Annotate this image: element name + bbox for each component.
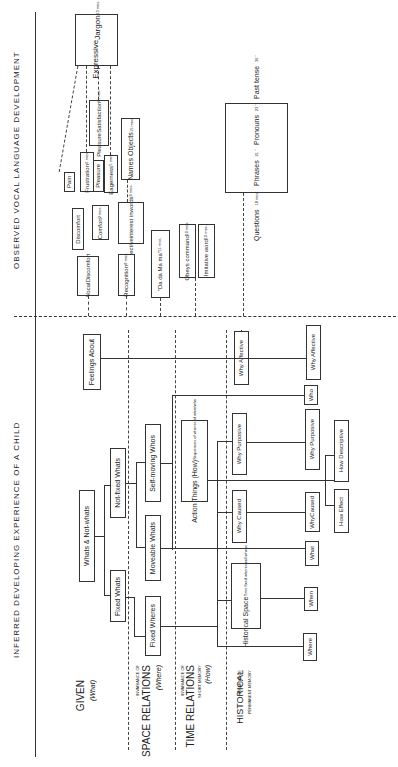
selective-interest-box: Selective interest in words 9 mos. <box>118 202 144 244</box>
comfort-age: 2 mos. <box>98 206 102 218</box>
milestone-pronouns: Pronouns 23 " <box>253 104 260 145</box>
connector-line <box>161 626 217 627</box>
action-things-sub: Sequences of wheres of what/who <box>192 399 196 460</box>
milestone-phrases: Phrases 21 " <box>253 150 260 187</box>
eagerness-age: 5 mos. <box>109 154 113 166</box>
fixed-wheres-box: Fixed Wheres <box>145 596 161 656</box>
connector-line <box>172 395 304 396</box>
connector-dashed <box>160 298 161 316</box>
where-label: Where <box>307 638 313 656</box>
given-title: GIVEN <box>75 680 86 711</box>
connector-line <box>208 480 334 481</box>
connector-dashed <box>88 296 89 316</box>
historical-space-box: Historical Space Time fixed wheres and w… <box>231 563 261 629</box>
action-things-label: Action Things (How) <box>191 460 198 523</box>
names-objects-label: Names Objects <box>127 132 134 180</box>
comfort-label: Comfort <box>97 218 103 239</box>
connector-line <box>136 547 145 548</box>
discomfort-box: Discomfort <box>72 208 84 250</box>
connector-dashed <box>59 66 79 172</box>
dada-mama-label: "Da da Ma ma" <box>157 251 163 291</box>
how-descriptive-label: How Descriptive <box>338 429 344 472</box>
connector-line <box>172 395 173 550</box>
eagerness-box: Eagerness 5 mos. <box>104 155 118 193</box>
what-box: What <box>305 541 319 566</box>
observed-header: OBSERVED VOCAL LANGUAGE DEVELOPMENT <box>12 20 21 300</box>
connector-line <box>136 462 137 547</box>
milestone-questions: Questions 18 mos. <box>253 191 260 241</box>
names-objects-box: Names Objects 15 mos. <box>121 118 140 180</box>
how-effect-box: How Effect <box>334 489 349 533</box>
connector-line <box>217 441 232 442</box>
historical-space-label: Historical Space <box>242 597 249 648</box>
satisfaction-line: Satisfaction <box>96 102 102 133</box>
how-descriptive-box: How Descriptive <box>334 420 349 482</box>
why-affective-box-2: Why Affective <box>306 325 321 380</box>
fixed-whats-label: Fixed Whats <box>114 577 121 616</box>
connector-line <box>134 597 135 637</box>
where-box: Where <box>303 633 317 661</box>
fixed-whats-box: Fixed Whats <box>110 570 126 622</box>
connector-dashed <box>98 66 99 100</box>
connector-line <box>241 330 242 331</box>
connector-line <box>134 636 145 637</box>
whats-not-whats-label: Whats & Not-whats <box>83 506 90 566</box>
self-moving-whos-box: Self-moving Whos <box>145 424 161 502</box>
row-time: INVARIANCE OF TIME RELATIONS SHORT MEMOR… <box>180 665 225 765</box>
connector-line <box>217 512 232 513</box>
caused-line: Caused <box>309 496 315 517</box>
not-fixed-whats-box: Not-fixed Whats <box>110 448 126 518</box>
expressive-jargon-box: Expressive Jargon 13 mos. <box>75 14 118 66</box>
why-line: Why <box>309 516 315 528</box>
selective-interest-age: 9 mos. <box>129 184 133 196</box>
why-purposive-box-1: Why Purposive <box>232 413 247 475</box>
frustration-label: Frustration <box>84 164 90 193</box>
connector-line <box>247 512 305 513</box>
words-line: words <box>128 196 134 212</box>
row-historical: HISTORICAL INVARIANCE PERMANENT MEMORY <box>235 670 275 765</box>
row-space: INVARIANCE OF SPACE RELATIONS (Where) <box>135 665 175 765</box>
connector-line <box>325 455 326 505</box>
recognition-box: Recognition 8 mos. <box>118 254 135 296</box>
who-box: Who <box>304 385 318 405</box>
jargon-label: Jargon <box>94 15 102 39</box>
dada-mama-age: 11 mos. <box>158 237 162 251</box>
who-label: Who <box>308 389 314 401</box>
time-historical-divider <box>226 330 227 750</box>
why-purposive-label-2: Why Purposive <box>309 419 315 459</box>
connector-line <box>249 358 306 359</box>
connector-dashed <box>86 66 87 152</box>
feelings-about-box: Feelings About <box>83 334 101 390</box>
interest-line: interest in <box>128 212 134 238</box>
observed-inferred-divider <box>14 316 396 317</box>
obeys-command-age: 10 mos. <box>185 221 189 235</box>
connector-line <box>247 442 305 443</box>
space-time-divider <box>175 330 176 750</box>
obeys-command-label: Obeys command <box>184 235 190 280</box>
dada-mama-box: "Da da Ma ma" 11 mos. <box>151 230 170 298</box>
when-box: When <box>304 587 318 611</box>
how-effect-label: How Effect <box>338 497 344 526</box>
why-purposive-label-1: Why Purposive <box>236 424 242 464</box>
pleasure-label: Pleasure <box>95 164 101 188</box>
why-caused-box-1: Why Caused <box>232 490 247 543</box>
expressive-jargon-age: 13 mos. <box>96 1 100 15</box>
inferred-header: INFERRED DEVELOPING EXPERIENCE OF A CHIL… <box>12 400 21 680</box>
connector-line <box>126 483 136 484</box>
connector-line <box>104 485 105 595</box>
whats-not-whats-box: Whats & Not-whats <box>79 490 95 582</box>
pain-box: Pain <box>64 172 75 192</box>
eagerness-label: Eagerness <box>108 166 114 195</box>
connector-dashed <box>126 296 127 316</box>
pain-label: Pain <box>66 176 72 188</box>
frustration-box: Frustration 6 mos. <box>80 152 94 192</box>
connector-line <box>325 455 334 456</box>
connector-line <box>126 597 134 598</box>
connector-line <box>161 548 305 549</box>
discomfort-line: Discomfort <box>85 254 91 283</box>
connector-line <box>325 505 334 506</box>
space-sub: (Where) <box>155 665 162 690</box>
milestone-past-tense: Past tense 36 " <box>253 55 260 99</box>
pleasure-line: Pleasure <box>96 133 102 157</box>
pleasure-box: Pleasure <box>93 160 104 192</box>
